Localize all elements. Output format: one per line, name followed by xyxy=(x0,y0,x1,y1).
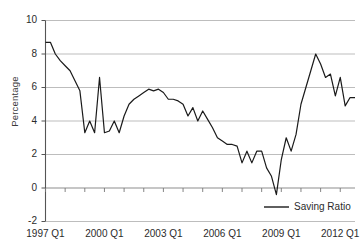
x-tick-label-1997q1: 1997 Q1 xyxy=(16,228,76,239)
series-saving-ratio-path xyxy=(46,42,356,194)
x-tick-label-2006q1: 2006 Q1 xyxy=(192,228,252,239)
y-tick-label-0: 0 xyxy=(11,182,37,193)
y-tick-label-4: 4 xyxy=(11,115,37,126)
y-tick-label-6: 6 xyxy=(11,81,37,92)
gridlines-group xyxy=(46,21,356,189)
x-tick-label-2012q1: 2012 Q1 xyxy=(310,228,362,239)
y-axis-title: Percentage xyxy=(9,62,20,142)
x-tick-marks-group xyxy=(46,188,341,192)
y-tick-label-2: 2 xyxy=(11,148,37,159)
y-tick-label-8: 8 xyxy=(11,48,37,59)
y-tick-label-minus2: -2 xyxy=(11,215,37,226)
x-tick-label-2000q1: 2000 Q1 xyxy=(74,228,134,239)
saving-ratio-line xyxy=(46,42,356,194)
y-tick-label-10: 10 xyxy=(11,14,37,25)
x-tick-label-2009q1: 2009 Q1 xyxy=(251,228,311,239)
x-tick-label-2003q1: 2003 Q1 xyxy=(133,228,193,239)
saving-ratio-line-chart: Percentage 10 8 6 4 2 0 -2 1997 Q1 2000 … xyxy=(0,0,362,247)
legend-entry-label: Saving Ratio xyxy=(294,201,351,212)
